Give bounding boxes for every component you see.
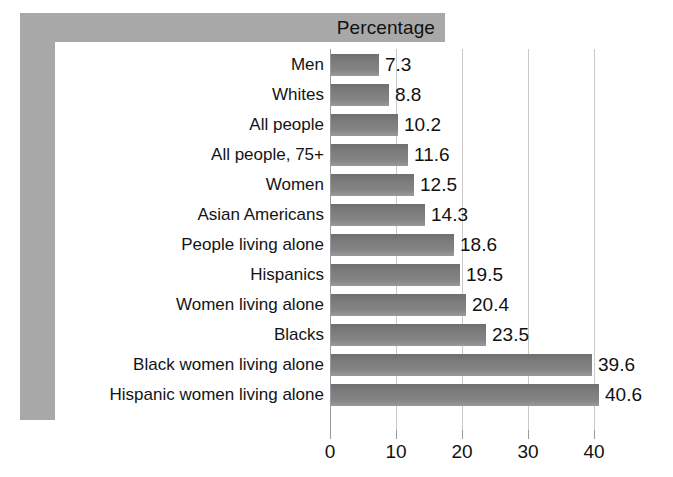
category-label: Black women living alone [133, 354, 324, 376]
category-label: People living alone [181, 234, 324, 256]
bar [331, 174, 414, 196]
x-tick-label: 30 [498, 441, 558, 463]
x-tick-30 [528, 430, 529, 439]
bar [331, 294, 466, 316]
chart-title: Percentage [20, 13, 445, 42]
bar-value-label: 18.6 [460, 234, 497, 256]
category-label: Women living alone [176, 294, 324, 316]
bar [331, 354, 592, 376]
category-label: Asian Americans [197, 204, 324, 226]
category-label: Hispanic women living alone [109, 384, 324, 406]
category-label: All people, 75+ [211, 144, 324, 166]
chart-figure: Percentage 010203040Men7.3Whites8.8All p… [0, 0, 673, 477]
bar-value-label: 23.5 [492, 324, 529, 346]
x-tick-label: 20 [432, 441, 492, 463]
x-tick-40 [594, 430, 595, 439]
bar [331, 324, 486, 346]
category-label: Men [291, 54, 324, 76]
bar [331, 84, 389, 106]
bar-value-label: 39.6 [598, 354, 635, 376]
x-tick-20 [462, 430, 463, 439]
x-tick-label: 0 [300, 441, 360, 463]
bar [331, 234, 454, 256]
bar-value-label: 8.8 [395, 84, 421, 106]
bar [331, 114, 398, 136]
bar [331, 384, 599, 406]
bar [331, 204, 425, 226]
bar-value-label: 7.3 [385, 54, 411, 76]
bar-value-label: 20.4 [472, 294, 509, 316]
x-tick-0 [330, 430, 331, 439]
category-label: Whites [272, 84, 324, 106]
bar-value-label: 10.2 [404, 114, 441, 136]
category-label: Blacks [274, 324, 324, 346]
bar-value-label: 11.6 [414, 144, 450, 166]
x-tick-10 [396, 430, 397, 439]
bar [331, 144, 408, 166]
bar-value-label: 40.6 [605, 384, 642, 406]
category-label: All people [249, 114, 324, 136]
gridline-40 [594, 49, 595, 430]
x-tick-label: 40 [564, 441, 624, 463]
category-label: Hispanics [250, 264, 324, 286]
bar [331, 264, 460, 286]
bar-value-label: 14.3 [431, 204, 468, 226]
bar-value-label: 12.5 [420, 174, 457, 196]
bar-value-label: 19.5 [466, 264, 503, 286]
plot-area: 010203040Men7.3Whites8.8All people10.2Al… [330, 49, 604, 430]
x-tick-label: 10 [366, 441, 426, 463]
category-label: Women [266, 174, 324, 196]
bar [331, 54, 379, 76]
frame-left-band [20, 13, 55, 420]
